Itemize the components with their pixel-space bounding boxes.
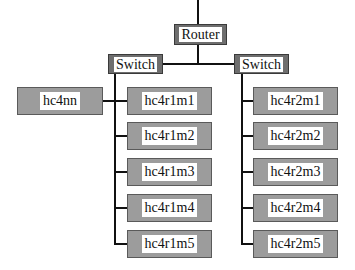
- host-label: hc4r1m1: [142, 92, 198, 110]
- right-branch-line: [241, 135, 253, 137]
- left-branch-line: [114, 207, 127, 209]
- left-bus-line: [114, 73, 116, 245]
- host-node-rack1: hc4r1m4: [127, 194, 212, 222]
- host-node-rack2: hc4r2m3: [253, 158, 338, 186]
- host-node-rack2: hc4r2m1: [253, 87, 338, 115]
- host-label: hc4r2m4: [268, 199, 324, 217]
- host-node-rack1: hc4r1m2: [127, 122, 212, 150]
- host-label: hc4r2m2: [268, 127, 324, 145]
- router-label: Router: [179, 27, 221, 42]
- router-down-line: [197, 44, 199, 64]
- left-branch-line: [114, 243, 127, 245]
- host-label: hc4r1m3: [142, 163, 198, 181]
- host-label: hc4r1m2: [142, 127, 198, 145]
- host-label: hc4r2m5: [268, 235, 324, 253]
- host-node-rack1: hc4r1m3: [127, 158, 212, 186]
- right-branch-line: [241, 100, 253, 102]
- host-label: hc4nn: [40, 92, 80, 110]
- switch-label: Switch: [114, 57, 157, 72]
- host-node-hc4nn: hc4nn: [17, 87, 103, 115]
- right-bus-line: [241, 73, 243, 245]
- host-node-rack1: hc4r1m5: [127, 230, 212, 258]
- right-branch-line: [241, 243, 253, 245]
- host-label: hc4r1m5: [142, 235, 198, 253]
- left-branch-line: [114, 135, 127, 137]
- right-branch-line: [241, 171, 253, 173]
- switch-node-right: Switch: [234, 54, 289, 74]
- host-node-rack1: hc4r1m1: [127, 87, 212, 115]
- right-branch-line: [241, 207, 253, 209]
- router-node: Router: [174, 24, 227, 45]
- left-branch-line: [114, 100, 127, 102]
- host-node-rack2: hc4r2m2: [253, 122, 338, 150]
- host-node-rack2: hc4r2m5: [253, 230, 338, 258]
- left-branch-line: [114, 171, 127, 173]
- host-label: hc4r2m1: [268, 92, 324, 110]
- host-label: hc4r1m4: [142, 199, 198, 217]
- host-label: hc4r2m3: [268, 163, 324, 181]
- switch-backbone-line: [162, 63, 235, 65]
- switch-label: Switch: [240, 57, 283, 72]
- switch-node-left: Switch: [108, 54, 163, 74]
- router-uplink-line: [197, 0, 199, 24]
- host-node-rack2: hc4r2m4: [253, 194, 338, 222]
